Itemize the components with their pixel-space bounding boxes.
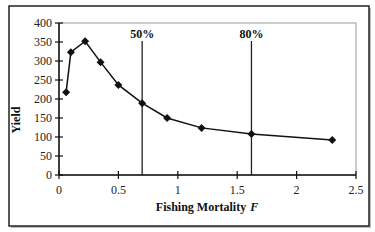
y-tick-label: 350 <box>34 35 52 49</box>
y-tick-label: 150 <box>34 111 52 125</box>
y-tick-label: 300 <box>34 54 52 68</box>
y-tick-label: 50 <box>40 149 52 163</box>
y-tick-label: 200 <box>34 92 52 106</box>
y-tick-label: 100 <box>34 130 52 144</box>
x-tick-label: 2.5 <box>349 183 364 197</box>
x-tick-label: 1 <box>175 183 181 197</box>
y-tick-label: 250 <box>34 73 52 87</box>
x-axis-title: Fishing MortalityF <box>156 200 258 214</box>
x-tick-label: 0 <box>56 183 62 197</box>
y-tick-label: 0 <box>46 168 52 182</box>
x-tick-label: 0.5 <box>111 183 126 197</box>
reference-line-label: 80% <box>239 27 263 41</box>
y-tick-label: 400 <box>34 16 52 30</box>
chart: 050100150200250300350400 00.511.522.5 50… <box>0 0 375 232</box>
chart-frame <box>9 6 369 226</box>
reference-line-label: 50% <box>130 27 154 41</box>
x-tick-label: 1.5 <box>230 183 245 197</box>
y-axis-title: Yield <box>9 106 23 133</box>
x-tick-label: 2 <box>294 183 300 197</box>
x-axis-title-variable: F <box>249 200 258 214</box>
x-axis-title-text: Fishing Mortality <box>156 200 246 214</box>
